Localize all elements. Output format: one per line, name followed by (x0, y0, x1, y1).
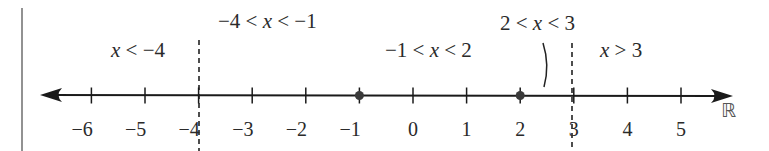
tick-label: −6 (71, 119, 92, 139)
tick-label: 0 (408, 119, 418, 139)
tick-label: −4 (179, 119, 200, 139)
tick-label: −5 (125, 119, 146, 139)
solid-dot-2 (516, 91, 525, 100)
var-x: x (600, 38, 609, 62)
tick-label: 3 (569, 119, 579, 139)
reals-symbol: ℝ (721, 101, 736, 120)
region-label-neg1-to-2: −1 < x < 2 (385, 40, 472, 61)
region-label-x-lt-neg4: x < −4 (111, 40, 165, 61)
region-text: −1 < (385, 38, 430, 62)
region-label-x-gt-3: x > 3 (600, 40, 642, 61)
tick-label: 5 (676, 119, 686, 139)
tick-label: 2 (515, 119, 525, 139)
solid-dot--1 (355, 91, 364, 100)
var-x: x (533, 11, 542, 35)
var-x: x (430, 38, 439, 62)
number-line-axis (46, 95, 722, 96)
region-text: < −4 (120, 38, 165, 62)
region-text: > 3 (609, 38, 642, 62)
tick-label: −3 (232, 119, 253, 139)
tick-label: 4 (622, 119, 632, 139)
var-x: x (263, 9, 272, 33)
region-label-neg4-to-neg1: −4 < x < −1 (218, 11, 317, 32)
tick-label: 1 (462, 119, 472, 139)
number-line-svg (0, 0, 769, 151)
region-text: < −1 (272, 9, 317, 33)
region-text: < 3 (542, 11, 575, 35)
tick-label: −1 (339, 119, 360, 139)
tick-label: −2 (286, 119, 307, 139)
region-text: −4 < (218, 9, 263, 33)
region-text: < 2 (439, 38, 472, 62)
region-text: 2 < (500, 11, 533, 35)
number-line-diagram: x < −4 −4 < x < −1 −1 < x < 2 2 < x < 3 … (0, 0, 769, 151)
var-x: x (111, 38, 120, 62)
region-label-2-to-3: 2 < x < 3 (500, 13, 575, 34)
region-pointer-curve (543, 43, 547, 87)
